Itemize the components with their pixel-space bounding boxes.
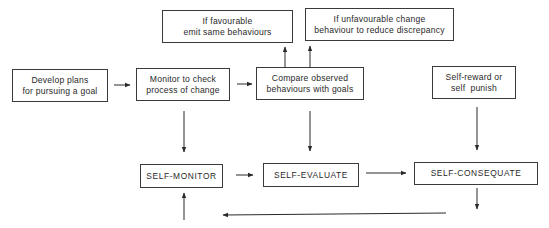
- node-self-monitor-label: SELF-MONITOR: [146, 171, 216, 182]
- node-self-reward-line2: self punish: [446, 83, 503, 94]
- node-compare-observed-line1: Compare observed: [267, 73, 354, 84]
- node-self-evaluate: SELF-EVALUATE: [263, 163, 359, 187]
- node-self-evaluate-label: SELF-EVALUATE: [274, 170, 348, 181]
- node-self-consequate-label: SELF-CONSEQUATE: [431, 168, 522, 179]
- node-if-favourable-line1: If favourable: [183, 16, 271, 27]
- node-develop-plans: Develop plans for pursuing a goal: [12, 69, 108, 102]
- node-self-reward-line1: Self-reward or: [446, 72, 503, 83]
- node-if-favourable: If favourable emit same behaviours: [162, 10, 293, 43]
- node-if-favourable-line2: emit same behaviours: [183, 27, 271, 38]
- node-monitor-check-line1: Monitor to check: [146, 74, 220, 85]
- node-compare-observed-line2: behaviours with goals: [267, 84, 354, 95]
- node-develop-plans-line1: Develop plans: [23, 75, 98, 86]
- node-develop-plans-line2: for pursuing a goal: [23, 86, 98, 97]
- node-self-consequate: SELF-CONSEQUATE: [414, 162, 538, 185]
- node-self-reward: Self-reward or self punish: [432, 66, 516, 99]
- node-compare-observed: Compare observed behaviours with goals: [256, 67, 364, 100]
- node-monitor-check: Monitor to check process of change: [136, 68, 230, 101]
- arrow-feedback-return: [223, 213, 446, 215]
- node-if-unfavourable-line2: behaviour to reduce discrepancy: [314, 25, 444, 36]
- node-if-unfavourable: If unfavourable change behaviour to redu…: [305, 8, 454, 41]
- node-self-monitor: SELF-MONITOR: [140, 164, 223, 188]
- node-monitor-check-line2: process of change: [146, 85, 220, 96]
- node-if-unfavourable-line1: If unfavourable change: [314, 14, 444, 25]
